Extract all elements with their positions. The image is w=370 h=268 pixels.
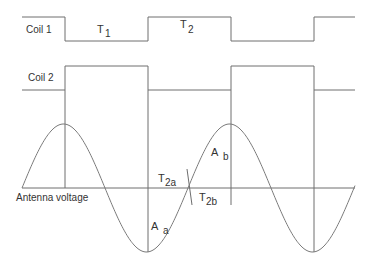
svg-text:1: 1	[105, 28, 111, 39]
interval-t2b-label: T 2b	[199, 191, 218, 207]
svg-text:T: T	[97, 23, 104, 35]
coil1-label: Coil 1	[26, 24, 52, 35]
zero-crossing-tick	[187, 169, 192, 205]
svg-text:a: a	[163, 225, 169, 236]
svg-text:2: 2	[188, 24, 194, 35]
svg-text:T: T	[180, 18, 187, 30]
interval-t2a-label: T 2a	[158, 172, 177, 188]
svg-text:b: b	[223, 151, 229, 162]
antenna-voltage-label: Antenna voltage	[16, 192, 89, 203]
svg-text:A: A	[211, 146, 219, 158]
interval-t1-label: T 1	[97, 23, 111, 39]
area-a-label: A a	[151, 220, 169, 236]
svg-text:T: T	[199, 191, 206, 203]
svg-text:2a: 2a	[165, 177, 177, 188]
interval-t2-label: T 2	[180, 18, 194, 35]
svg-text:A: A	[151, 220, 159, 232]
area-b-label: A b	[211, 146, 229, 162]
coil2-waveform	[22, 66, 355, 90]
svg-text:2b: 2b	[206, 196, 218, 207]
coil2-label: Coil 2	[28, 72, 54, 83]
svg-text:T: T	[158, 172, 165, 184]
timing-diagram: Coil 1 Coil 2 Antenna voltage T 1 T 2 T …	[0, 0, 370, 268]
